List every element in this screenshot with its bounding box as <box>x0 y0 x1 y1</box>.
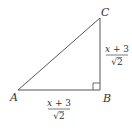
side-bc-denominator: √2 <box>111 57 122 67</box>
right-angle-marker <box>93 83 100 90</box>
side-ab-denominator: √2 <box>53 111 64 121</box>
triangle-abc <box>18 18 100 90</box>
vertex-label-a: A <box>9 91 18 104</box>
side-ab-length-label: x + 3 √2 <box>47 98 71 121</box>
side-ab-numerator: x + 3 <box>47 98 71 108</box>
side-bc-length-label: x + 3 √2 <box>105 44 129 67</box>
vertex-label-b: B <box>102 92 111 105</box>
side-bc-numerator: x + 3 <box>105 44 129 54</box>
vertex-label-c: C <box>101 6 110 19</box>
triangle-diagram: C A B x + 3 √2 x + 3 √2 <box>0 0 132 129</box>
